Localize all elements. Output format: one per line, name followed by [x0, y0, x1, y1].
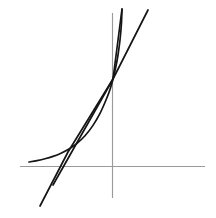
axes-group — [20, 13, 205, 198]
figure-container — [0, 0, 216, 218]
plot-canvas — [0, 0, 216, 218]
curves-group — [29, 9, 148, 206]
steep-line — [40, 9, 122, 206]
tangent-line — [53, 10, 148, 185]
